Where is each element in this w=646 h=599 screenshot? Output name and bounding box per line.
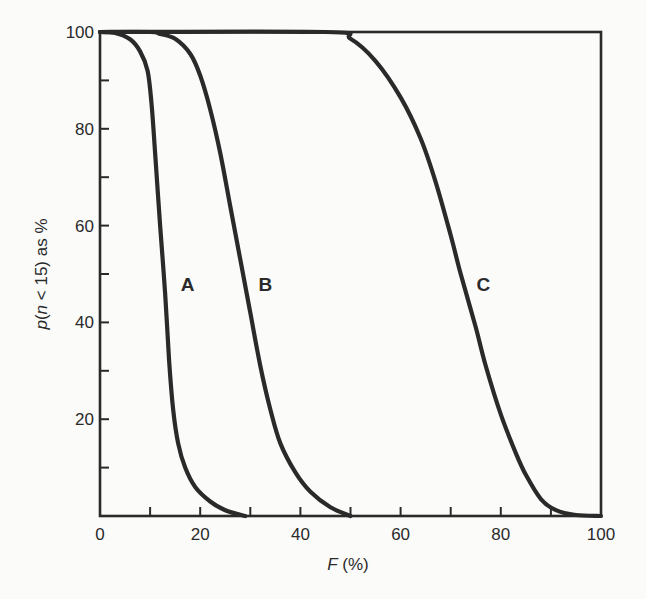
x-tick-label: 60 bbox=[391, 525, 410, 544]
x-tick-labels: 020406080100 bbox=[95, 525, 615, 544]
x-tick-label: 0 bbox=[95, 525, 104, 544]
x-tick-label: 20 bbox=[191, 525, 210, 544]
y-tick-labels: 20406080100 bbox=[66, 23, 94, 429]
x-tick-label: 80 bbox=[491, 525, 510, 544]
curves bbox=[100, 31, 601, 516]
curve-c bbox=[100, 31, 601, 516]
y-tick-label: 20 bbox=[75, 410, 94, 429]
axis-ticks bbox=[100, 80, 551, 516]
x-tick-label: 40 bbox=[291, 525, 310, 544]
plot-frame bbox=[100, 32, 601, 516]
curve-label-b: B bbox=[258, 274, 272, 295]
curve-label-a: A bbox=[181, 274, 195, 295]
plot-border bbox=[100, 32, 601, 516]
curve-a bbox=[100, 32, 245, 516]
x-axis-title: F (%) bbox=[327, 555, 369, 574]
curve-b bbox=[100, 32, 351, 516]
y-tick-label: 40 bbox=[75, 313, 94, 332]
x-tick-label: 100 bbox=[587, 525, 615, 544]
y-tick-label: 100 bbox=[66, 23, 94, 42]
y-tick-label: 60 bbox=[75, 217, 94, 236]
curve-labels: ABC bbox=[181, 274, 491, 295]
y-axis-title: p(n < 15) as % bbox=[32, 218, 51, 330]
y-tick-label: 80 bbox=[75, 120, 94, 139]
curve-label-c: C bbox=[476, 274, 490, 295]
line-chart: 020406080100 20406080100 ABC F (%) p(n <… bbox=[0, 0, 646, 599]
